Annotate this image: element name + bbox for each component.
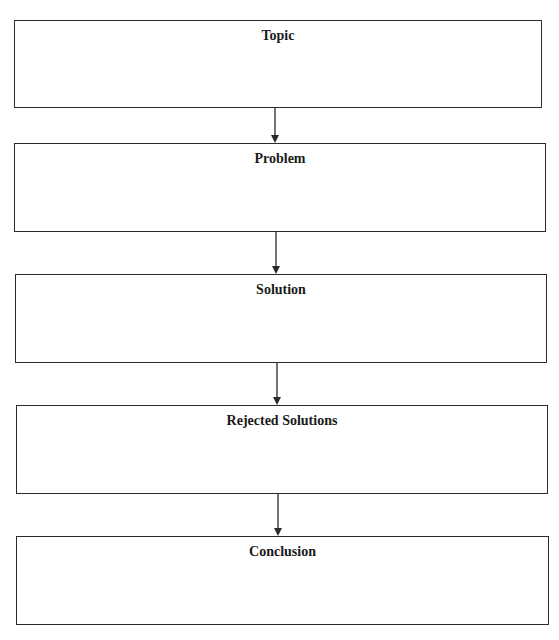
flowchart-box-rejected-solutions: Rejected Solutions <box>16 405 548 494</box>
box-title-rejected-solutions: Rejected Solutions <box>17 413 547 429</box>
box-title-conclusion: Conclusion <box>17 544 548 560</box>
arrow-down-icon <box>272 232 280 274</box>
flowchart-box-topic: Topic <box>14 20 542 108</box>
box-title-topic: Topic <box>15 28 541 44</box>
flowchart-box-problem: Problem <box>14 143 546 232</box>
flowchart-box-solution: Solution <box>15 274 547 363</box>
arrow-down-icon <box>273 363 281 405</box>
flowchart-box-conclusion: Conclusion <box>16 536 549 625</box>
box-title-problem: Problem <box>15 151 545 167</box>
arrow-down-icon <box>271 108 279 143</box>
arrow-down-icon <box>274 494 282 536</box>
box-title-solution: Solution <box>16 282 546 298</box>
